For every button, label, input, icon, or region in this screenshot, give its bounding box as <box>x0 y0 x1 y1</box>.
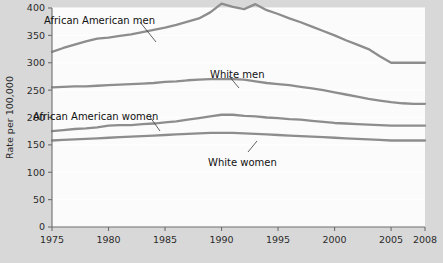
y-tick-label-300: 300 <box>27 57 45 68</box>
line-chart: 0501001502002503003504001975198019851990… <box>0 0 443 263</box>
chart-container: 0501001502002503003504001975198019851990… <box>0 0 443 263</box>
series-annotation-3: White women <box>208 157 277 168</box>
y-axis-title: Rate per 100,000 <box>4 76 15 159</box>
x-tick-label-1990: 1990 <box>209 234 233 245</box>
y-tick-label-150: 150 <box>27 139 45 150</box>
y-tick-label-350: 350 <box>27 30 45 41</box>
x-tick-label-2008: 2008 <box>413 234 437 245</box>
y-tick-label-250: 250 <box>27 85 45 96</box>
x-tick-label-1980: 1980 <box>96 234 120 245</box>
y-tick-label-50: 50 <box>33 194 45 205</box>
y-tick-label-0: 0 <box>39 221 45 232</box>
series-annotation-1: White men <box>210 69 265 80</box>
x-tick-label-2000: 2000 <box>322 234 346 245</box>
x-tick-label-1995: 1995 <box>266 234 290 245</box>
x-tick-label-2005: 2005 <box>379 234 403 245</box>
y-tick-label-400: 400 <box>27 2 45 13</box>
x-tick-label-1975: 1975 <box>40 234 64 245</box>
series-annotation-0: African American men <box>44 15 155 26</box>
series-annotation-2: African American women <box>33 111 158 122</box>
y-tick-label-100: 100 <box>27 167 45 178</box>
x-tick-label-1985: 1985 <box>153 234 177 245</box>
